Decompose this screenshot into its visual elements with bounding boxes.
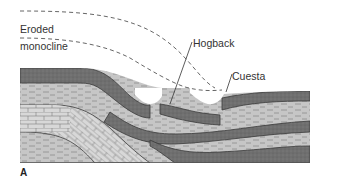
label-monocline: monocline (20, 41, 68, 52)
label-eroded: Eroded (20, 24, 54, 35)
label-hogback: Hogback (193, 38, 234, 49)
label-cuesta: Cuesta (232, 71, 265, 82)
panel-letter: A (20, 168, 27, 178)
strata-block (20, 60, 310, 163)
